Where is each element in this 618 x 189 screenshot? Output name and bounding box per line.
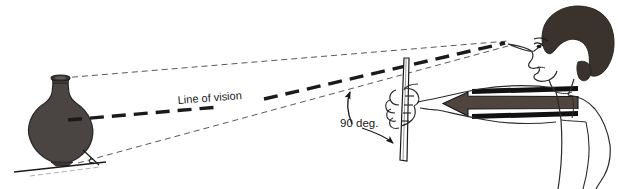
canvas-background [0,0,618,189]
pot-mouth-opening [55,76,67,79]
pupil [537,45,542,48]
figure-container: Line of vision 90 deg. [0,0,618,189]
sideburn [577,61,591,81]
diagram-svg: Line of vision 90 deg. [0,0,618,189]
angle-label: 90 deg. [340,117,378,129]
